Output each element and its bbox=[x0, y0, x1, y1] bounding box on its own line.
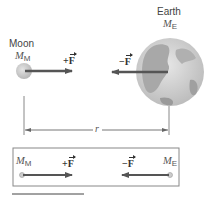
earth-mass-symbol: ME bbox=[163, 18, 177, 31]
free-body-right-force: −F bbox=[122, 158, 134, 169]
free-body-left-mass: MM bbox=[16, 155, 31, 168]
moon-label: Moon bbox=[9, 38, 34, 49]
diagram-graphics bbox=[0, 0, 218, 197]
free-body-left-force: +F bbox=[62, 158, 74, 169]
distance-label: r bbox=[93, 123, 101, 134]
force-label-on-moon: +F bbox=[63, 55, 75, 66]
free-body-right-mass: ME bbox=[163, 155, 177, 168]
moon-mass-symbol: MM bbox=[15, 50, 30, 63]
force-label-on-earth: −F bbox=[119, 56, 131, 67]
earth-label: Earth bbox=[157, 6, 181, 17]
free-body-box bbox=[13, 148, 179, 186]
